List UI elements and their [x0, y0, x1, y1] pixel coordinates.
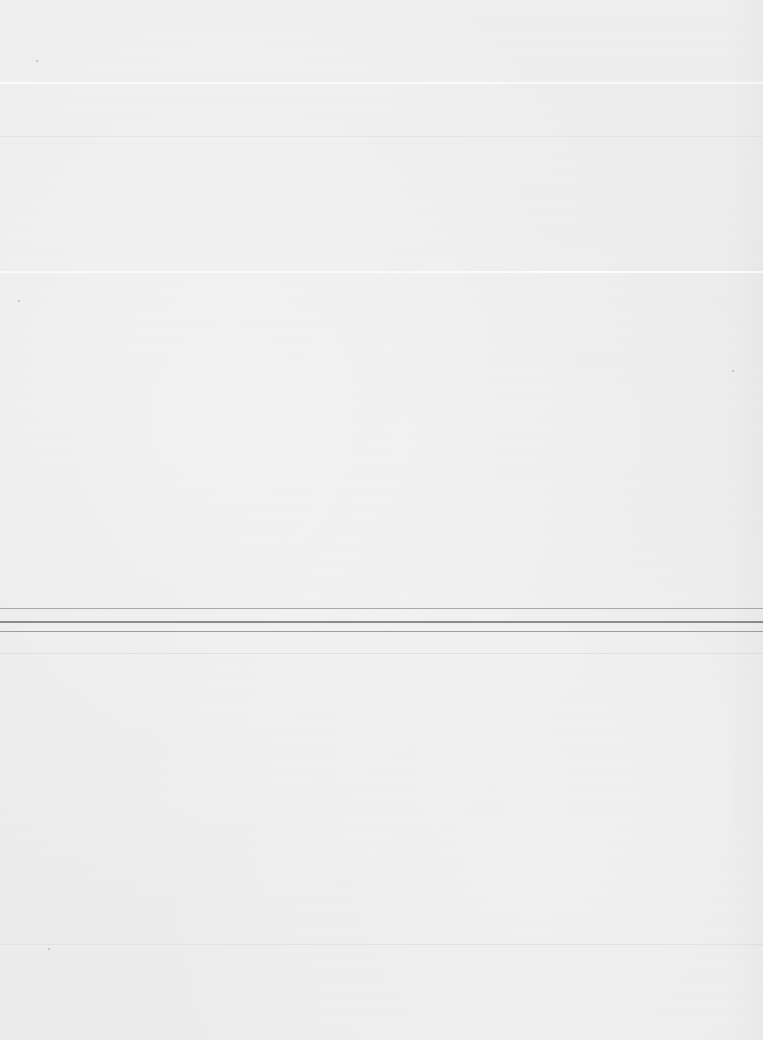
page-edge-shadow: [727, 0, 763, 1040]
horizontal-rule-2: [0, 136, 763, 137]
scan-speck: [36, 60, 38, 62]
horizontal-rule-6: [0, 631, 763, 632]
document-page: [0, 0, 763, 1040]
horizontal-rule-8: [0, 944, 763, 945]
scan-speck: [732, 370, 734, 372]
horizontal-rule-3: [0, 271, 763, 273]
horizontal-rule-5: [0, 621, 763, 623]
horizontal-rule-1: [0, 82, 763, 84]
horizontal-rule-7: [0, 653, 763, 654]
horizontal-rule-4: [0, 608, 763, 609]
scan-speck: [18, 300, 20, 302]
scan-speck: [48, 948, 50, 950]
